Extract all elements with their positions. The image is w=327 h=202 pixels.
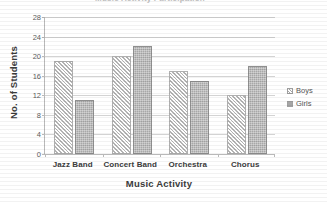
bar-group [103,17,161,154]
bar-chart: Music Activity Participation No. of Stud… [0,0,327,202]
x-axis-tick-mark [103,154,104,157]
bar-group [160,17,218,154]
bar-boys[interactable] [112,56,131,154]
legend: BoysGirls [287,84,313,110]
y-axis-title: No. of Students [8,18,19,148]
hatch-swatch-icon [287,88,293,94]
x-axis-tick-label: Orchestra [159,160,217,169]
bar-boys[interactable] [54,61,73,154]
y-axis-tick-label: 12 [33,91,41,100]
y-axis-tick-label: 20 [33,52,41,61]
y-axis-tick-label: 16 [33,71,41,80]
x-axis-tick-label: Concert Band [102,160,160,169]
x-axis-tick-mark [160,154,161,157]
x-axis-tick-labels: Jazz BandConcert BandOrchestraChorus [44,160,274,169]
legend-item-boys[interactable]: Boys [287,84,313,97]
bar-girls[interactable] [75,100,94,154]
bar-group [45,17,103,154]
legend-label: Boys [296,86,313,95]
x-axis-tick-mark [274,154,275,157]
y-axis-tick-label: 8 [37,110,41,119]
x-axis-tick-mark [45,154,46,157]
y-axis-tick-label: 24 [33,32,41,41]
bar-girls[interactable] [190,81,209,154]
solid-swatch-icon [287,101,293,107]
y-axis-tick-label: 28 [33,13,41,22]
bar-girls[interactable] [248,66,267,154]
x-axis-title: Music Activity [44,178,274,189]
legend-item-girls[interactable]: Girls [287,97,313,110]
y-axis-tick-label: 4 [37,130,41,139]
bar-boys[interactable] [169,71,188,154]
x-axis-tick-label: Chorus [217,160,275,169]
x-axis-tick-label: Jazz Band [44,160,102,169]
legend-label: Girls [296,99,311,108]
chart-title: Music Activity Participation [40,0,260,3]
bar-groups [45,17,275,154]
y-axis-tick-label: 0 [37,150,41,159]
bar-boys[interactable] [227,95,246,154]
bar-girls[interactable] [133,46,152,154]
bar-group [218,17,276,154]
plot-area: 2824201612840 [44,17,274,154]
x-axis-tick-mark [218,154,219,157]
